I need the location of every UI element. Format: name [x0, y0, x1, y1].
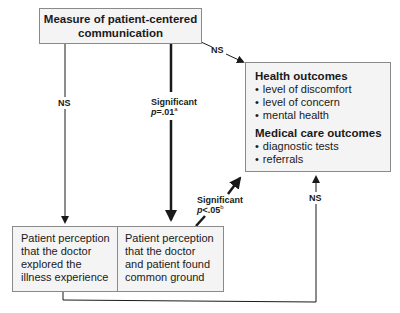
edge-label-measure-explored: NS [58, 98, 71, 108]
list-item: diagnostic tests [255, 140, 390, 153]
health-outcomes-header: Health outcomes [255, 69, 390, 83]
list-item: referrals [255, 153, 390, 166]
perception-explored-line: illness experience [21, 271, 117, 284]
measure-title-line2: communication [40, 26, 201, 40]
perception-common-ground-box: Patient perception that the doctor and p… [117, 226, 224, 292]
health-outcomes-list: level of discomfort level of concern men… [255, 83, 390, 122]
perception-common-ground-line: and patient found [125, 258, 223, 271]
outcomes-box: Health outcomes level of discomfort leve… [245, 62, 391, 172]
edge-label-common-ground-outcomes: Significant p<.05b [197, 195, 243, 215]
path-diagram: Measure of patient-centered communicatio… [0, 0, 400, 313]
perception-common-ground-line: that the doctor [125, 245, 223, 258]
perception-common-ground-line: Patient perception [125, 232, 223, 245]
list-item: level of concern [255, 96, 390, 109]
perception-explored-line: that the doctor [21, 245, 117, 258]
perception-explored-box: Patient perception that the doctor explo… [12, 226, 118, 292]
list-item: level of discomfort [255, 83, 390, 96]
edge-label-measure-common-ground: Significant p=.01a [151, 97, 197, 117]
edge-label-measure-outcomes: NS [211, 45, 224, 55]
list-item: mental health [255, 109, 390, 122]
medical-care-outcomes-list: diagnostic tests referrals [255, 140, 390, 166]
perception-common-ground-line: common ground [125, 271, 223, 284]
footnote-marker: b [220, 204, 223, 210]
perception-explored-line: explored the [21, 258, 117, 271]
measure-box: Measure of patient-centered communicatio… [39, 8, 202, 44]
footnote-marker: a [174, 106, 177, 112]
p-value: p<.05b [197, 205, 243, 215]
p-value: p=.01a [151, 107, 197, 117]
medical-care-outcomes-header: Medical care outcomes [255, 126, 390, 140]
perception-explored-line: Patient perception [21, 232, 117, 245]
measure-title-line1: Measure of patient-centered [40, 12, 201, 26]
edge-label-explored-outcomes: NS [309, 193, 322, 203]
